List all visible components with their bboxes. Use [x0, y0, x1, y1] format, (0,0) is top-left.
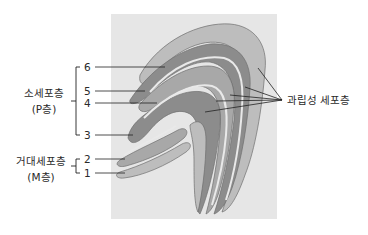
layer-number-1: 1 — [84, 168, 91, 179]
layer-number-4: 4 — [84, 98, 91, 109]
magnocellular-name: 거대세포층 — [10, 156, 72, 167]
parvocellular-sub: (P층) — [18, 104, 70, 115]
m-layer-bracket — [71, 159, 80, 173]
lgn-layers-illustration — [0, 0, 368, 235]
parvocellular-label: 소세포층 (P층) — [18, 88, 70, 114]
layer-number-3: 3 — [84, 130, 91, 141]
lgn-layer-diagram: 6 5 4 3 2 1 소세포층 (P층) 거대세포층 (M층) 과립성 세포층 — [0, 0, 368, 235]
magnocellular-label: 거대세포층 (M층) — [10, 156, 72, 182]
parvocellular-name: 소세포층 — [18, 88, 70, 99]
layer-number-2: 2 — [84, 154, 91, 165]
p-layer-bracket — [71, 67, 80, 135]
layer-number-6: 6 — [84, 62, 91, 73]
granular-layer-label: 과립성 세포층 — [287, 95, 350, 106]
magnocellular-sub: (M층) — [10, 172, 72, 183]
layer-number-5: 5 — [84, 86, 91, 97]
